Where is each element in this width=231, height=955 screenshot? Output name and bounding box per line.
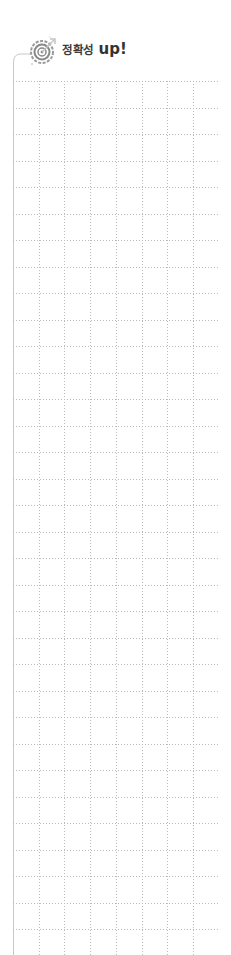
title-up: up! bbox=[99, 40, 127, 58]
section-title: 정확성 up! bbox=[62, 40, 127, 58]
title-korean: 정확성 bbox=[62, 41, 94, 57]
section-header: 정확성 up! bbox=[0, 0, 231, 80]
target-icon bbox=[28, 36, 58, 66]
note-grid bbox=[13, 81, 218, 955]
dotted-grid bbox=[13, 81, 219, 955]
